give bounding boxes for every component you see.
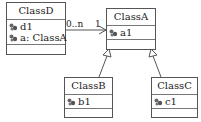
generalization-line-c: [153, 56, 161, 77]
attributes-section: d1 a: ClassA: [7, 20, 65, 45]
attribute-icon: [109, 29, 118, 37]
operations-section: [107, 40, 155, 49]
attribute-row[interactable]: a: ClassA: [9, 32, 65, 43]
class-box-classb[interactable]: ClassB b1: [64, 77, 113, 118]
attribute-row[interactable]: d1: [9, 21, 65, 32]
multiplicity-source: 0..n: [66, 19, 83, 29]
class-name: ClassA: [107, 9, 155, 26]
multiplicity-target: 1: [95, 19, 101, 29]
attributes-section: c1: [152, 95, 197, 109]
class-box-classd[interactable]: ClassD d1 a: ClassA: [6, 2, 66, 55]
operations-section: [7, 45, 65, 54]
attribute-label: a1: [120, 27, 132, 38]
class-name: ClassD: [7, 3, 65, 20]
attribute-row[interactable]: c1: [154, 96, 197, 107]
class-box-classa[interactable]: ClassA a1: [106, 8, 156, 50]
class-box-classc[interactable]: ClassC c1: [151, 77, 198, 118]
attribute-label: b1: [78, 96, 91, 107]
attribute-icon: [9, 23, 18, 31]
attributes-section: b1: [65, 95, 112, 109]
class-name: ClassC: [152, 78, 197, 95]
operations-section: [65, 109, 112, 118]
generalization-triangle-icon: [103, 49, 111, 57]
attribute-label: c1: [165, 96, 177, 107]
attribute-icon: [9, 34, 18, 42]
generalization-triangle-icon: [149, 49, 157, 57]
attribute-icon: [67, 98, 76, 106]
operations-section: [152, 109, 197, 118]
attribute-label: a: ClassA: [20, 32, 67, 43]
class-name: ClassB: [65, 78, 112, 95]
attribute-row[interactable]: a1: [109, 27, 155, 38]
attribute-icon: [154, 98, 163, 106]
attributes-section: a1: [107, 26, 155, 40]
attribute-label: d1: [20, 21, 33, 32]
attribute-row[interactable]: b1: [67, 96, 112, 107]
generalization-line-b: [99, 56, 107, 77]
